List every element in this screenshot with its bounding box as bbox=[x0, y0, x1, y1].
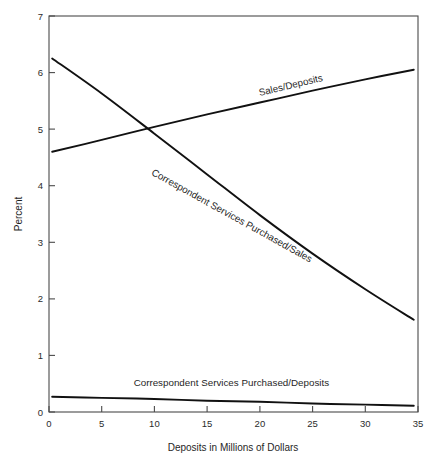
y-tick-6: 6 bbox=[38, 67, 55, 78]
x-tick-label: 0 bbox=[46, 418, 51, 429]
y-tick-2: 2 bbox=[38, 293, 55, 304]
x-tick-label: 15 bbox=[202, 418, 213, 429]
x-tick-3: 15 bbox=[202, 406, 213, 429]
x-tick-label: 35 bbox=[413, 418, 424, 429]
x-axis-title: Deposits in Millions of Dollars bbox=[168, 442, 299, 453]
x-tick-label: 25 bbox=[307, 418, 318, 429]
y-tick-5: 5 bbox=[38, 124, 55, 135]
y-tick-label: 4 bbox=[38, 180, 43, 191]
y-tick-label: 5 bbox=[38, 124, 43, 135]
y-tick-3: 3 bbox=[38, 237, 55, 248]
y-tick-0: 0 bbox=[38, 407, 55, 418]
x-tick-1: 5 bbox=[99, 406, 104, 429]
line-chart-svg: 0 1 2 3 4 5 6 bbox=[0, 0, 435, 461]
x-tick-2: 10 bbox=[149, 406, 160, 429]
x-tick-label: 10 bbox=[149, 418, 160, 429]
y-tick-7: 7 bbox=[38, 11, 55, 22]
series-label-sales-deposits: Sales/Deposits bbox=[258, 72, 324, 98]
chart-figure: 0 1 2 3 4 5 6 bbox=[0, 0, 435, 461]
y-tick-label: 3 bbox=[38, 237, 43, 248]
x-tick-5: 25 bbox=[307, 406, 318, 429]
x-tick-6: 30 bbox=[360, 406, 371, 429]
series-label-corr-services-purchased-sales: Correspondent Services Purchased/Sales bbox=[150, 167, 315, 265]
y-axis: 0 1 2 3 4 5 6 bbox=[38, 11, 55, 418]
x-tick-label: 30 bbox=[360, 418, 371, 429]
series-line-sales-deposits bbox=[52, 70, 414, 152]
x-axis: 0 5 10 15 20 25 bbox=[46, 406, 423, 429]
y-tick-1: 1 bbox=[38, 350, 55, 361]
series-line-corr-services-purchased-deposits bbox=[52, 397, 414, 406]
y-tick-label: 1 bbox=[38, 350, 43, 361]
x-tick-label: 5 bbox=[99, 418, 104, 429]
y-tick-label: 6 bbox=[38, 67, 43, 78]
caption-fragment bbox=[24, 457, 264, 461]
y-tick-label: 7 bbox=[38, 11, 43, 22]
y-tick-4: 4 bbox=[38, 180, 55, 191]
series-label-corr-services-purchased-deposits: Correspondent Services Purchased/Deposit… bbox=[134, 377, 330, 388]
series-line-corr-services-purchased-sales bbox=[52, 58, 414, 319]
y-tick-label: 0 bbox=[38, 407, 43, 418]
y-axis-title: Percent bbox=[13, 197, 24, 232]
x-tick-0: 0 bbox=[46, 406, 51, 429]
x-tick-4: 20 bbox=[255, 406, 266, 429]
x-tick-label: 20 bbox=[255, 418, 266, 429]
x-tick-7: 35 bbox=[413, 406, 424, 429]
y-tick-label: 2 bbox=[38, 293, 43, 304]
